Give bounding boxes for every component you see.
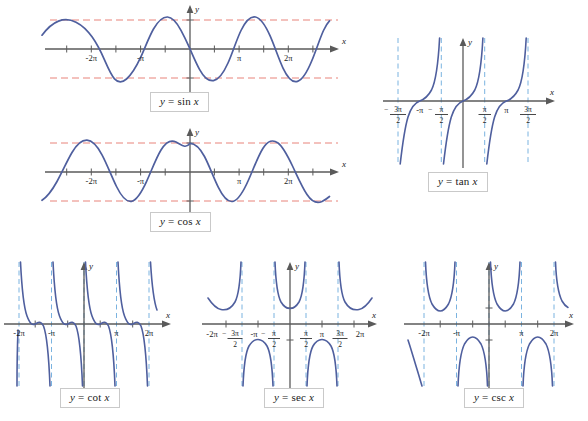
caption-lhs: y — [274, 391, 279, 403]
x-tick-label-negpi2: π 2 − — [428, 105, 448, 125]
caption-var: x — [509, 391, 514, 403]
panel-csc: x y -2π -π π 2π y = csc x — [402, 252, 588, 417]
plot-sin: x y -2π -π π 2π — [20, 2, 350, 94]
x-axis-label: x — [549, 87, 554, 97]
caption-fn: cos — [177, 215, 192, 227]
svg-text:2: 2 — [338, 340, 342, 349]
svg-text:2: 2 — [272, 340, 276, 349]
x-tick-label-negpi: -π — [416, 105, 424, 115]
x-tick-label-negpi: -π — [453, 328, 461, 338]
svg-text:3π: 3π — [231, 329, 239, 338]
x-tick-label-neg3pi2: 3π 2 − — [384, 105, 406, 125]
caption-lhs: y — [474, 391, 479, 403]
x-axis-arrow — [565, 321, 574, 328]
x-tick-label-pi: π — [114, 328, 119, 338]
x-tick-label-negpi: -π — [48, 328, 56, 338]
plot-cos: x y -2π -π π 2π — [20, 124, 350, 216]
x-tick-label-pi: π — [237, 176, 242, 186]
plot-csc: x y -2π -π π 2π — [402, 252, 588, 392]
y-axis-label: y — [194, 4, 199, 14]
x-axis-label: x — [371, 310, 376, 320]
y-axis-label: y — [467, 37, 472, 47]
x-tick-label-2pi: 2π — [145, 328, 154, 338]
x-tick-label-neg2pi: -2π — [418, 328, 430, 338]
svg-text:3π: 3π — [336, 329, 344, 338]
caption-lhs: y — [438, 175, 443, 187]
panel-cos: x y -2π -π π 2π y = cos x — [20, 124, 350, 234]
x-axis-label: x — [341, 159, 346, 169]
y-axis-label: y — [88, 261, 93, 271]
caption-lhs: y — [70, 391, 75, 403]
x-tick-label-2pi: 2π — [284, 53, 293, 63]
x-tick-label-2pi: 2π — [356, 329, 365, 339]
caption-fn: sin — [177, 95, 190, 107]
svg-text:2: 2 — [396, 116, 400, 125]
x-tick-label-negpi: -π — [250, 329, 258, 339]
x-tick-label-neg2pi: -2π — [86, 176, 98, 186]
caption-tan: y = tan x — [428, 172, 488, 192]
caption-var: x — [472, 175, 477, 187]
caption-fn: csc — [491, 391, 506, 403]
svg-text:3π: 3π — [394, 105, 402, 114]
x-axis-arrow — [330, 169, 339, 176]
y-axis-arrow — [460, 38, 467, 46]
x-tick-label-negpi2: π 2 − — [261, 329, 280, 349]
x-axis-arrow — [546, 98, 555, 105]
y-axis-label: y — [294, 261, 299, 271]
x-axis-label: x — [165, 310, 170, 320]
svg-text:π: π — [439, 105, 443, 114]
x-tick-label-neg3pi2: 3π 2 − — [222, 329, 243, 349]
x-axis-arrow — [330, 46, 339, 53]
svg-text:−: − — [261, 329, 265, 338]
x-tick-label-pi: π — [519, 328, 524, 338]
y-axis-label: y — [493, 261, 498, 271]
svg-text:2: 2 — [304, 340, 308, 349]
caption-eq: = — [168, 215, 174, 227]
x-tick-label-2pi: 2π — [550, 328, 559, 338]
plot-cot: x y -2π -π π 2π — [2, 252, 192, 392]
panel-sin: x y -2π -π π 2π y = sin x — [20, 2, 350, 114]
caption-eq: = — [446, 175, 452, 187]
plot-sec: x y -2π 3π 2 − -π π 2 − π 2 π 3π 2 2π — [200, 252, 400, 392]
x-tick-label-2pi: 2π — [284, 176, 293, 186]
x-tick-label-3pi2: 3π 2 — [333, 329, 348, 349]
x-tick-label-neg2pi: -2π — [86, 53, 98, 63]
caption-sin: y = sin x — [150, 92, 209, 112]
panel-sec: x y -2π 3π 2 − -π π 2 − π 2 π 3π 2 2π y — [200, 252, 400, 417]
caption-var: x — [309, 391, 314, 403]
caption-fn: cot — [87, 391, 101, 403]
curve-cos — [42, 140, 330, 202]
svg-text:2: 2 — [233, 340, 237, 349]
caption-fn: sec — [291, 391, 306, 403]
y-axis-arrow — [287, 262, 294, 270]
plot-tan: x y 3π 2 − -π π 2 − π 2 π 3π 2 — [378, 24, 578, 172]
svg-text:3π: 3π — [524, 105, 532, 114]
caption-fn: tan — [455, 175, 469, 187]
panel-cot: x y -2π -π π 2π y = cot x — [2, 252, 192, 417]
caption-cot: y = cot x — [60, 388, 120, 408]
x-tick-label-negpi: -π — [137, 176, 145, 186]
y-axis-arrow — [187, 5, 194, 13]
svg-text:−: − — [428, 105, 432, 114]
caption-cos: y = cos x — [150, 212, 211, 232]
caption-var: x — [196, 215, 201, 227]
caption-lhs: y — [160, 95, 165, 107]
x-tick-label-neg2pi: -2π — [206, 329, 218, 339]
x-axis-label: x — [341, 36, 346, 46]
caption-lhs: y — [160, 215, 165, 227]
caption-eq: = — [282, 391, 288, 403]
svg-text:−: − — [222, 329, 226, 338]
svg-text:2: 2 — [526, 116, 530, 125]
svg-text:−: − — [384, 105, 388, 114]
y-axis-arrow — [187, 128, 194, 136]
x-tick-label-neg2pi: -2π — [13, 328, 25, 338]
x-tick-label-negpi: -π — [137, 53, 145, 63]
x-tick-label-pi: π — [320, 329, 325, 339]
x-tick-label-pi: π — [504, 105, 509, 115]
x-tick-label-pi: π — [237, 53, 242, 63]
caption-eq: = — [78, 391, 84, 403]
caption-var: x — [104, 391, 109, 403]
svg-text:2: 2 — [439, 116, 443, 125]
x-axis-arrow — [368, 321, 377, 328]
x-axis-label: x — [568, 310, 573, 320]
